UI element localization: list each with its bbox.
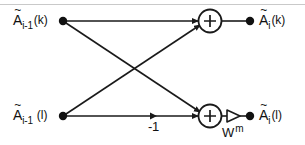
tilde-accent-icon: ~ — [14, 4, 21, 16]
output-label-top-symbol: ~A — [259, 13, 268, 27]
input-label-bottom-subscript: i-1 — [22, 115, 33, 126]
twiddle-exponent: m — [235, 123, 243, 134]
output-node-bottom-dot — [246, 112, 254, 120]
input-label-bottom-index: (l) — [37, 108, 48, 122]
edge-top-cross — [63, 21, 200, 112]
input-node-bottom-dot — [59, 112, 67, 120]
twiddle-symbol: W — [222, 125, 234, 140]
input-label-top-index: (k) — [34, 13, 48, 27]
output-label-bottom-index: (l) — [271, 108, 282, 122]
input-label-top: ~Ai-1(k) — [13, 13, 48, 31]
edge-bottom-cross — [63, 25, 200, 116]
input-label-top-subscript: i-1 — [22, 20, 33, 31]
input-label-bottom: ~Ai-1(l) — [13, 108, 48, 126]
tilde-accent-icon: ~ — [260, 4, 267, 16]
gain-minus-one-label: -1 — [148, 120, 159, 133]
twiddle-factor-label: Wm — [222, 124, 244, 139]
input-label-top-symbol: ~A — [13, 13, 22, 27]
tilde-accent-icon: ~ — [260, 99, 267, 111]
input-label-bottom-symbol: ~A — [13, 108, 22, 122]
input-node-top-dot — [59, 17, 67, 25]
output-label-top: ~Ai(k) — [259, 13, 285, 31]
output-label-bottom: ~Ai(l) — [259, 108, 282, 126]
tilde-accent-icon: ~ — [14, 99, 21, 111]
output-node-top-dot — [246, 17, 254, 25]
butterfly-diagram: ~Ai-1(k) ~Ai-1(l) ~Ai(k) ~Ai(l) -1 Wm — [0, 0, 305, 145]
output-label-bottom-symbol: ~A — [259, 108, 268, 122]
twiddle-multiplier-triangle — [227, 110, 240, 122]
output-label-top-index: (k) — [271, 13, 285, 27]
